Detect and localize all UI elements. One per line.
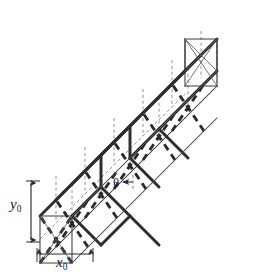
truss-diagram-svg — [0, 0, 264, 279]
y0-label: y0 — [10, 197, 21, 214]
x0-label: x0 — [56, 255, 67, 272]
theta-label-symbol: θ — [113, 175, 119, 190]
theta-label: θ — [113, 176, 119, 189]
x0-label-symbol: x — [56, 254, 63, 270]
x0-label-subscript: 0 — [63, 262, 68, 272]
figure-canvas: y0 x0 θ — [0, 0, 264, 279]
y0-label-subscript: 0 — [17, 204, 22, 214]
heavy-dashed-braces — [40, 84, 204, 263]
y0-label-symbol: y — [10, 196, 17, 212]
